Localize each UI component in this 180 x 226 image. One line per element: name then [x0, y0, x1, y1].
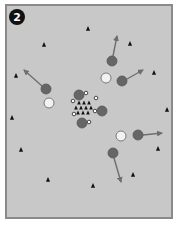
step-number-badge: 2	[9, 9, 25, 25]
player-dark	[117, 76, 127, 86]
marker-dot	[87, 120, 91, 124]
marker-dot	[94, 96, 98, 100]
player-dark	[97, 106, 107, 116]
drill-diagram: 2	[0, 0, 180, 226]
marker-dot	[84, 91, 88, 95]
player-light	[101, 73, 111, 83]
marker-dot	[71, 99, 75, 103]
player-dark	[108, 148, 118, 158]
player-light	[116, 131, 126, 141]
player-dark	[41, 84, 51, 94]
player-dark	[107, 56, 117, 66]
player-dark	[74, 90, 84, 100]
marker-dot	[93, 109, 97, 113]
player-dark	[77, 118, 87, 128]
playing-field	[6, 5, 172, 218]
player-light	[44, 98, 54, 108]
player-dark	[133, 130, 143, 140]
badge-number: 2	[13, 11, 21, 24]
marker-dot	[72, 112, 76, 116]
